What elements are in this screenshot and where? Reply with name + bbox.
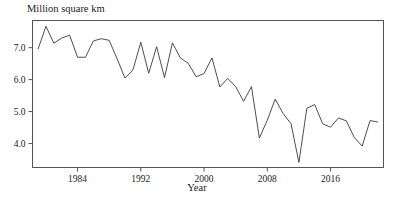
plot-frame <box>33 21 384 168</box>
data-series-layer <box>38 26 378 162</box>
y-axis-ticks: 4.05.06.07.0 <box>14 43 33 149</box>
y-tick-label: 7.0 <box>14 43 26 53</box>
x-axis-title: Year <box>0 183 394 194</box>
line-chart-plot: 4.05.06.07.0 19841992200020082016 <box>0 0 394 204</box>
plot-border <box>33 21 384 168</box>
chart-figure: Million square km 4.05.06.07.0 198419922… <box>0 0 394 204</box>
y-tick-label: 5.0 <box>14 107 26 117</box>
series-line-minimum-sea-ice-extent <box>38 26 378 162</box>
y-tick-label: 6.0 <box>14 75 26 85</box>
y-tick-label: 4.0 <box>14 139 26 149</box>
